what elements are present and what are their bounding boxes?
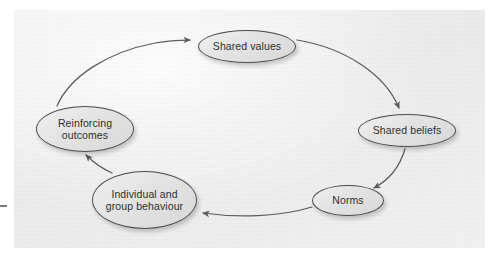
node-shared-values[interactable]: Shared values bbox=[198, 30, 296, 63]
node-behaviour-label: Individual and group behaviour bbox=[106, 188, 183, 213]
node-behaviour-label-line2: group behaviour bbox=[106, 200, 183, 213]
edge-shared-values-to-shared-beliefs bbox=[297, 40, 399, 108]
node-norms-label: Norms bbox=[332, 194, 363, 207]
edge-reinforcing-to-shared-values bbox=[57, 40, 190, 106]
edge-behaviour-to-reinforcing bbox=[86, 155, 112, 173]
node-behaviour-label-line1: Individual and bbox=[106, 188, 183, 201]
cycle-diagram-figure: Shared values Shared beliefs Norms Indiv… bbox=[0, 0, 500, 259]
node-reinforcing-label: Reinforcing outcomes bbox=[58, 117, 112, 142]
node-reinforcing-outcomes[interactable]: Reinforcing outcomes bbox=[36, 106, 134, 152]
node-shared-values-label: Shared values bbox=[213, 40, 281, 53]
edge-shared-beliefs-to-norms bbox=[374, 149, 405, 188]
node-reinforcing-label-line1: Reinforcing bbox=[58, 117, 112, 130]
edge-norms-to-behaviour bbox=[203, 207, 312, 216]
node-shared-beliefs-label: Shared beliefs bbox=[373, 124, 442, 137]
node-individual-group-behaviour[interactable]: Individual and group behaviour bbox=[92, 171, 197, 229]
node-shared-beliefs[interactable]: Shared beliefs bbox=[358, 114, 456, 147]
node-norms[interactable]: Norms bbox=[312, 185, 384, 216]
node-reinforcing-label-line2: outcomes bbox=[58, 129, 112, 142]
